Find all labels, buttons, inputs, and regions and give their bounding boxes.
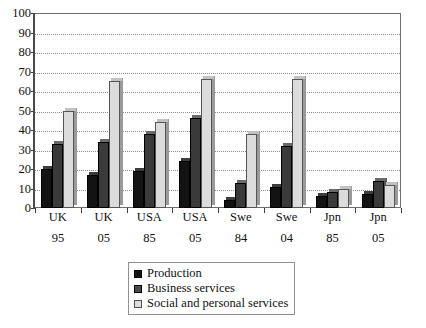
bar-face [87, 175, 98, 208]
y-tick-label: 50 [3, 105, 31, 117]
bar-group [355, 13, 401, 208]
bar [41, 169, 52, 208]
bar [52, 144, 63, 208]
bar-face [235, 183, 246, 208]
bar-face [190, 118, 201, 208]
y-tick-label: 70 [3, 66, 31, 78]
bar-chart: 1009080706050403020100 UK95UK05USA85USA0… [0, 0, 426, 328]
legend-swatch-business-services-icon [134, 285, 142, 293]
bar [373, 181, 384, 208]
bar [235, 183, 246, 208]
bar-face [384, 185, 395, 208]
bar-face [373, 181, 384, 208]
x-tick-label-year: 85 [310, 231, 356, 246]
legend-swatch-production-icon [134, 270, 142, 278]
bar [362, 194, 373, 208]
bar-face [327, 192, 338, 208]
bar-group [264, 13, 310, 208]
bar-face [144, 134, 155, 208]
bar-face [52, 144, 63, 208]
bar [384, 185, 395, 208]
y-tick-label: 0 [3, 202, 31, 214]
x-tick-mark [401, 208, 402, 213]
y-tick-label: 40 [3, 124, 31, 136]
bar [109, 81, 120, 208]
bar-face [292, 79, 303, 208]
bar [179, 161, 190, 208]
x-tick-label-country: Jpn [369, 210, 386, 224]
x-tick-mark [310, 208, 311, 213]
y-tick-label: 100 [3, 7, 31, 19]
legend-label-business-services: Business services [147, 282, 235, 295]
x-tick-label-year: 05 [355, 231, 401, 246]
bar-side [303, 76, 306, 205]
legend-item-business-services: Business services [134, 281, 288, 296]
x-tick-label: Jpn85 [310, 210, 356, 246]
x-tick-label-year: 95 [35, 231, 81, 246]
x-tick-label-year: 05 [172, 231, 218, 246]
y-tick-label: 60 [3, 85, 31, 97]
bar [133, 171, 144, 208]
bar-group [127, 13, 173, 208]
y-tick-label: 20 [3, 163, 31, 175]
y-axis: 1009080706050403020100 [0, 13, 31, 208]
bar [155, 122, 166, 208]
x-tick-mark [127, 208, 128, 213]
x-tick-label-year: 85 [127, 231, 173, 246]
bar-face [63, 111, 74, 209]
bar-face [362, 194, 373, 208]
bar-face [224, 200, 235, 208]
bar [316, 196, 327, 208]
x-tick-label-country: Swe [276, 210, 298, 224]
x-tick-label: USA05 [172, 210, 218, 246]
x-tick-label-year: 04 [264, 231, 310, 246]
x-tick-mark [355, 208, 356, 213]
bar-group [310, 13, 356, 208]
bar [327, 192, 338, 208]
x-tick-label-country: USA [183, 210, 208, 224]
bar-side [166, 119, 169, 205]
x-tick-label-country: Jpn [324, 210, 341, 224]
legend-label-production: Production [147, 267, 202, 280]
bar-side [395, 182, 398, 205]
x-tick-label: Jpn05 [355, 210, 401, 246]
bar-side [74, 108, 77, 206]
bar-face [133, 171, 144, 208]
bar [270, 187, 281, 208]
x-tick-mark [81, 208, 82, 213]
x-axis: UK95UK05USA85USA05Swe84Swe04Jpn85Jpn05 [35, 210, 401, 258]
x-tick-label-year: 84 [218, 231, 264, 246]
bar-group [35, 13, 81, 208]
bar [63, 111, 74, 209]
bar-face [155, 122, 166, 208]
x-tick-mark [172, 208, 173, 213]
x-tick-label-country: USA [137, 210, 162, 224]
x-tick-mark [35, 208, 36, 213]
x-tick-label: Swe04 [264, 210, 310, 246]
bar-face [281, 146, 292, 208]
bar [144, 134, 155, 208]
bars-layer [35, 13, 401, 208]
legend-item-production: Production [134, 266, 288, 281]
bar-group [172, 13, 218, 208]
bar-face [109, 81, 120, 208]
x-tick-label-country: UK [95, 210, 113, 224]
bar-face [179, 161, 190, 208]
x-tick-label-country: Swe [230, 210, 252, 224]
bar-group [218, 13, 264, 208]
bar [190, 118, 201, 208]
legend-swatch-social-and-personal-services-icon [134, 300, 142, 308]
x-tick-label: UK95 [35, 210, 81, 246]
x-tick-label: USA85 [127, 210, 173, 246]
x-tick-label: Swe84 [218, 210, 264, 246]
bar-side [120, 78, 123, 205]
legend: Production Business services Social and … [128, 262, 295, 315]
y-tick-label: 10 [3, 183, 31, 195]
x-tick-label: UK05 [81, 210, 127, 246]
y-tick-label: 90 [3, 27, 31, 39]
bar-face [41, 169, 52, 208]
bar-face [98, 142, 109, 208]
bar [98, 142, 109, 208]
x-tick-label-year: 05 [81, 231, 127, 246]
bar [224, 200, 235, 208]
